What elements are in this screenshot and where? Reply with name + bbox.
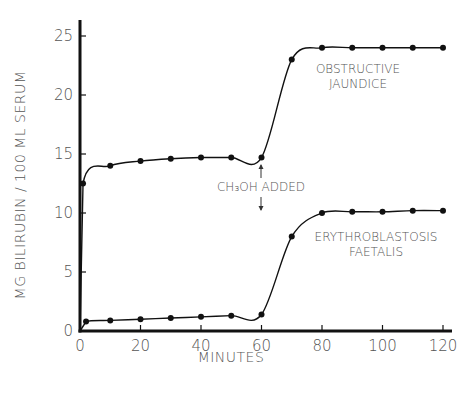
annotation-ch3oh-added: CH₃OH ADDED — [217, 180, 305, 194]
x-tick-label: 120 — [429, 337, 458, 355]
x-tick-label: 0 — [75, 337, 85, 355]
annotation-arrow-up-icon — [259, 164, 264, 178]
annotation-arrow-down-icon — [259, 197, 264, 211]
data-point-marker — [138, 158, 144, 164]
data-point-marker — [138, 316, 144, 322]
data-point-marker — [410, 45, 416, 51]
bilirubin-chart: 0510152025020406080100120 MINUTES MG BIL… — [0, 0, 475, 403]
data-point-marker — [168, 315, 174, 321]
x-tick-label: 100 — [368, 337, 397, 355]
data-point-marker — [83, 319, 89, 325]
series-label-erythroblastosis-line1: ERYTHROBLASTOSIS — [315, 230, 438, 244]
data-point-marker — [319, 45, 325, 51]
data-point-marker — [440, 208, 446, 214]
data-point-marker — [319, 210, 325, 216]
data-point-marker — [198, 155, 204, 161]
data-point-marker — [289, 57, 295, 63]
data-point-marker — [168, 156, 174, 162]
y-tick-label: 20 — [54, 86, 73, 104]
y-axis-label: MG BILIRUBIN / 100 ML SERUM — [12, 71, 28, 300]
x-tick-label: 80 — [312, 337, 331, 355]
data-point-marker — [228, 155, 234, 161]
x-axis-label: MINUTES — [198, 349, 265, 365]
data-point-marker — [289, 234, 295, 240]
data-point-marker — [228, 313, 234, 319]
data-point-marker — [349, 209, 355, 215]
data-point-marker — [107, 317, 113, 323]
y-tick-label: 15 — [54, 145, 73, 163]
y-tick-label: 25 — [54, 27, 73, 45]
data-point-marker — [440, 45, 446, 51]
x-tick-label: 20 — [131, 337, 150, 355]
data-point-marker — [259, 155, 265, 161]
series-label-erythroblastosis-line2: FAETALIS — [349, 245, 403, 259]
data-point-marker — [349, 45, 355, 51]
series-label-obstructive-line2: JAUNDICE — [329, 77, 387, 91]
y-tick-label: 5 — [63, 263, 73, 281]
y-tick-label: 0 — [63, 322, 73, 340]
data-point-marker — [380, 45, 386, 51]
series-label-obstructive-line1: OBSTRUCTIVE — [316, 62, 400, 76]
data-point-marker — [410, 208, 416, 214]
data-point-marker — [107, 163, 113, 169]
y-tick-label: 10 — [54, 204, 73, 222]
data-point-marker — [198, 314, 204, 320]
data-point-marker — [380, 209, 386, 215]
data-point-marker — [259, 311, 265, 317]
data-point-marker — [80, 181, 86, 187]
